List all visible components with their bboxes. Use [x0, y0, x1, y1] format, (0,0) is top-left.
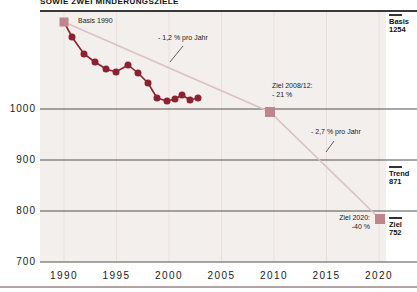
y-axis-tick-label: 1000	[0, 104, 36, 114]
x-axis-tick-label: 2020	[357, 270, 401, 281]
annotation-rate-minus-2-7: - 2,7 % pro Jahr	[311, 128, 361, 137]
emissions-point	[103, 66, 110, 73]
right-label-basis-value: 1254	[389, 26, 416, 34]
right-label-ziel: Ziel 752	[389, 217, 416, 237]
x-axis-tick-label: 2010	[252, 270, 296, 281]
emissions-point	[164, 98, 171, 105]
ziel-2008-12-marker	[265, 107, 275, 117]
annotation-ziel-2008-12-line2: - 21 %	[272, 91, 312, 100]
bottom-rule	[0, 286, 417, 288]
emissions-point	[113, 69, 120, 76]
emissions-point	[92, 59, 99, 66]
x-axis-tick-label: 2000	[147, 270, 191, 281]
emissions-point	[154, 95, 161, 102]
y-axis-tick-label: 900	[0, 155, 36, 165]
chart-canvas: SOWIE ZWEI MINDERUNGSZIELE 1000 900 800 …	[0, 0, 417, 292]
annotation-basis-1990: Basis 1990	[78, 17, 113, 26]
emissions-point	[145, 80, 152, 87]
trend-dash	[389, 166, 402, 168]
annotation-ziel-2020-line1: Ziel 2020:	[320, 214, 370, 223]
annotation-ziel-2020-line2: -40 %	[320, 223, 370, 232]
annotation-rate-minus-1-2: - 1,2 % pro Jahr	[158, 34, 208, 43]
emissions-point	[81, 51, 88, 58]
emissions-point	[195, 95, 202, 102]
right-label-ziel-value: 752	[389, 229, 416, 237]
right-label-trend-value: 871	[389, 178, 416, 186]
emissions-point	[69, 34, 76, 41]
emissions-point	[179, 92, 186, 99]
x-axis-tick-label: 2005	[200, 270, 244, 281]
y-axis-tick-label: 800	[0, 206, 36, 216]
emissions-point	[125, 62, 132, 69]
y-axis-tick-label: 700	[0, 257, 36, 267]
basis-1990-marker	[60, 18, 69, 27]
annotation-ziel-2008-12-line1: Ziel 2008/12:	[272, 82, 312, 91]
right-label-trend: Trend 871	[389, 166, 416, 186]
x-axis-tick-label: 2015	[305, 270, 349, 281]
emissions-point	[135, 70, 142, 77]
x-axis-tick-label: 1995	[95, 270, 139, 281]
ziel-dash	[389, 217, 402, 219]
plot-svg	[0, 0, 417, 292]
basis-dash	[389, 14, 402, 16]
right-label-basis: Basis 1254	[389, 14, 416, 34]
emissions-point	[187, 97, 194, 104]
x-axis-tick-label: 1990	[42, 270, 86, 281]
annotation-ziel-2020: Ziel 2020: -40 %	[320, 214, 370, 231]
emissions-point	[172, 96, 179, 103]
ziel-2020-marker	[375, 214, 385, 224]
annotation-ziel-2008-12: Ziel 2008/12: - 21 %	[272, 82, 312, 99]
